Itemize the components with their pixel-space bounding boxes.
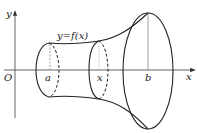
x-axis-label: x — [186, 71, 192, 82]
label-x: x — [97, 72, 103, 83]
solid-of-revolution-diagram: y x O y=f(x) a x b — [0, 0, 197, 133]
label-b: b — [145, 72, 151, 83]
curve-label: y=f(x) — [56, 30, 88, 41]
label-a: a — [45, 72, 51, 83]
curve-bottom — [49, 96, 148, 129]
origin-label: O — [4, 72, 12, 83]
y-axis-label: y — [5, 8, 12, 19]
